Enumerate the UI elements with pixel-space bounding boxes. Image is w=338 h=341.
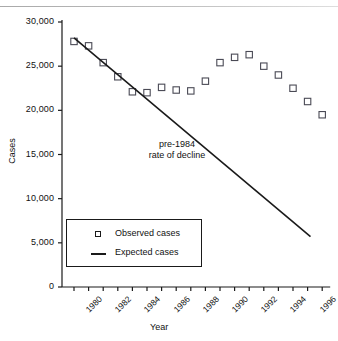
y-tick-label: 30,000 xyxy=(0,16,54,26)
chart-legend: Observed cases Expected cases xyxy=(66,219,202,267)
legend-item-expected: Expected cases xyxy=(67,244,203,262)
y-tick-label: 5,000 xyxy=(0,237,54,247)
y-tick-label: 25,000 xyxy=(0,60,54,70)
legend-label-expected: Expected cases xyxy=(115,247,179,257)
y-tick-label: 15,000 xyxy=(0,149,54,159)
y-tick-label: 20,000 xyxy=(0,104,54,114)
line-segment-icon xyxy=(91,253,106,255)
x-axis-title: Year xyxy=(150,322,168,332)
trend-annotation: pre-1984 rate of decline xyxy=(129,139,225,161)
open-square-icon xyxy=(95,231,101,237)
y-tick-label: 0 xyxy=(0,281,54,291)
y-tick-label: 10,000 xyxy=(0,193,54,203)
legend-item-observed: Observed cases xyxy=(67,225,203,243)
annotation-line-2: rate of decline xyxy=(129,150,225,161)
legend-label-observed: Observed cases xyxy=(115,228,180,238)
chart-figure: Cases Year 05,00010,00015,00020,00025,00… xyxy=(0,0,338,341)
annotation-line-1: pre-1984 xyxy=(129,139,225,150)
